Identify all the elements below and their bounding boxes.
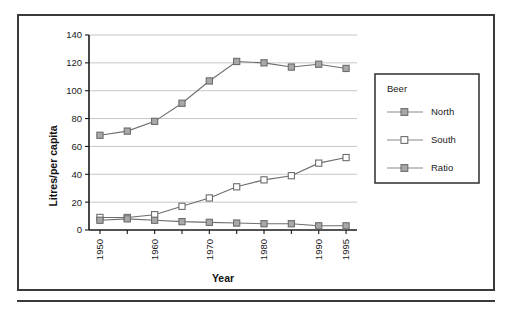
legend-marker [401,137,408,144]
x-tick-label: 1995 [340,239,351,260]
data-point-marker [179,203,185,209]
legend-title: Beer [387,83,407,94]
data-point-marker [261,60,267,66]
data-point-marker [206,219,212,225]
figure-page: 020406080100120140 195019601970198019901… [0,0,513,309]
x-tick-label: 1950 [94,239,105,260]
data-point-marker [97,217,103,223]
data-point-marker [152,217,158,223]
data-series-group [97,58,349,229]
data-point-marker [124,216,130,222]
data-point-marker [234,58,240,64]
y-tick-label: 80 [71,113,82,124]
series-north [97,58,349,138]
data-point-marker [179,100,185,106]
line-chart: 020406080100120140 195019601970198019901… [19,16,497,293]
data-point-marker [234,220,240,226]
y-tick-label: 0 [77,224,82,235]
series-line [100,219,346,226]
legend-item-label: North [431,106,454,117]
data-point-marker [206,78,212,84]
data-point-marker [234,184,240,190]
data-point-marker [288,173,294,179]
chart-area: 020406080100120140 195019601970198019901… [19,16,497,293]
series-south [97,154,349,220]
data-point-marker [206,195,212,201]
legend-item-label: South [431,134,456,145]
y-axis-title: Litres/per capita [47,125,59,206]
data-point-marker [261,177,267,183]
y-tick-label: 60 [71,141,82,152]
gridlines [89,35,357,202]
series-line [100,61,346,135]
x-tick-label: 1980 [258,239,269,260]
data-point-marker [343,223,349,229]
y-tick-label: 20 [71,197,82,208]
x-tick-label: 1960 [149,239,160,260]
bottom-divider-rule [17,300,495,302]
y-tick-label: 140 [66,29,82,40]
data-point-marker [97,132,103,138]
y-axis-ticks: 020406080100120140 [66,29,89,235]
data-point-marker [316,61,322,67]
chart-legend[interactable]: Beer NorthSouthRatio [375,74,479,183]
data-point-marker [316,223,322,229]
y-tick-label: 120 [66,57,82,68]
data-point-marker [124,128,130,134]
data-point-marker [343,65,349,71]
x-axis-ticks: 195019601970198019901995 [94,230,351,260]
legend-marker [401,109,408,116]
data-point-marker [288,64,294,70]
legend-marker [401,165,408,172]
series-ratio [97,216,349,229]
x-tick-label: 1990 [313,239,324,260]
data-point-marker [179,219,185,225]
data-point-marker [152,118,158,124]
y-tick-label: 100 [66,85,82,96]
data-point-marker [288,221,294,227]
figure-frame: 020406080100120140 195019601970198019901… [17,14,495,291]
x-tick-label: 1970 [204,239,215,260]
data-point-marker [343,154,349,160]
legend-item-label: Ratio [431,162,453,173]
data-point-marker [261,221,267,227]
x-axis-title: Year [212,272,234,284]
y-tick-label: 40 [71,169,82,180]
data-point-marker [316,160,322,166]
series-line [100,158,346,218]
